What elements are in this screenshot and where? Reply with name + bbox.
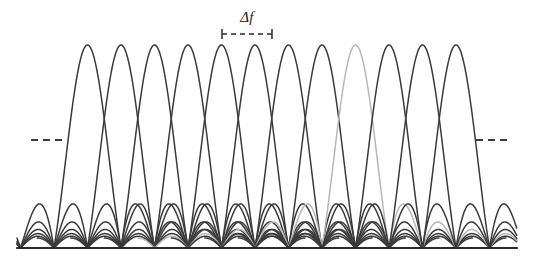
- delta-f-label: Δf: [240, 10, 253, 25]
- subcarrier-6: [37, 45, 472, 248]
- subcarrier-curves-layer: [17, 45, 517, 248]
- ofdm-subcarrier-spectrum-figure: Δf: [0, 0, 533, 263]
- subcarrier-12: [238, 45, 516, 248]
- subcarrier-11: [205, 45, 517, 248]
- spectrum-plot: [0, 0, 533, 263]
- subcarrier-7: [71, 45, 506, 248]
- subcarrier-3: [17, 45, 372, 248]
- annotation-layer: [31, 29, 509, 140]
- subcarrier-8: [104, 45, 516, 248]
- subcarrier-10: [171, 45, 517, 248]
